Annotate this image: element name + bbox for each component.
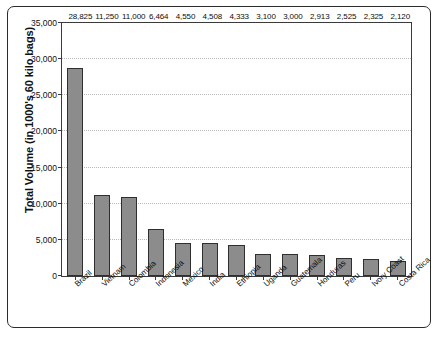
bar-value-label: 4,333 (229, 12, 249, 21)
bar-slot: 2,325 (357, 23, 384, 276)
bar-value-label: 6,464 (149, 12, 169, 21)
y-tick-label: 20,000 (31, 126, 57, 136)
x-label-slot: Costa Rica (385, 279, 412, 325)
y-tick-label: 0 (52, 271, 57, 281)
bar-value-label: 3,100 (256, 12, 276, 21)
bar[interactable]: 11,250 (94, 195, 110, 276)
x-label-slot: Colombia (115, 279, 142, 325)
bar[interactable]: 2,325 (363, 259, 379, 276)
bar-slot: 4,550 (169, 23, 196, 276)
bar-slot: 2,120 (384, 23, 411, 276)
bar-value-label: 4,550 (176, 12, 196, 21)
x-label-slot: Mexico (169, 279, 196, 325)
bar-value-label: 2,525 (337, 12, 357, 21)
bar-slot: 3,000 (277, 23, 304, 276)
bar-value-label: 4,508 (203, 12, 223, 21)
bar-slot: 4,333 (223, 23, 250, 276)
x-label-slot: Vietnam (88, 279, 115, 325)
bar-series: 28,82511,25011,0006,4644,5504,5084,3333,… (62, 23, 411, 276)
y-tick-label: 35,000 (31, 18, 57, 28)
x-axis-category-labels: BrazilVietnamColombiaIndonesiaMexicoIndi… (61, 279, 412, 325)
bar-slot: 28,825 (62, 23, 89, 276)
y-tick-label: 25,000 (31, 90, 57, 100)
y-tick-label: 30,000 (31, 54, 57, 64)
bar-slot: 3,100 (250, 23, 277, 276)
bar-slot: 11,000 (116, 23, 143, 276)
x-label-slot: Ivory Coast (358, 279, 385, 325)
x-label-slot: Brazil (61, 279, 88, 325)
plot-area: 05,00010,00015,00020,00025,00030,00035,0… (61, 22, 412, 277)
bar-value-label: 28,825 (68, 12, 92, 21)
bar-slot: 11,250 (89, 23, 116, 276)
y-tick-label: 5,000 (36, 235, 57, 245)
x-label-slot: Honduras (304, 279, 331, 325)
bar[interactable]: 4,333 (228, 245, 244, 276)
bar-value-label: 2,120 (391, 12, 411, 21)
y-tick-label: 15,000 (31, 163, 57, 173)
y-tick-label: 10,000 (31, 199, 57, 209)
x-label-slot: India (196, 279, 223, 325)
x-label-slot: Peru (331, 279, 358, 325)
bar[interactable]: 28,825 (67, 68, 83, 276)
bar-value-label: 11,250 (95, 12, 118, 21)
bar-slot: 2,913 (304, 23, 331, 276)
bar-value-label: 3,000 (283, 12, 303, 21)
x-label-slot: Guatemala (277, 279, 304, 325)
bar-value-label: 2,325 (364, 12, 384, 21)
x-label-slot: Uganda (250, 279, 277, 325)
bar-value-label: 2,913 (310, 12, 330, 21)
bar-slot: 6,464 (143, 23, 170, 276)
bar-value-label: 11,000 (122, 12, 145, 21)
bar-slot: 4,508 (196, 23, 223, 276)
chart-figure: Total Volume (in 1000's 60 kilo bags) 05… (7, 6, 431, 328)
x-label-slot: Ethiopia (223, 279, 250, 325)
x-label-slot: Indonesia (142, 279, 169, 325)
y-axis-title: Total Volume (in 1000's 60 kilo bags) (23, 20, 35, 220)
bar-slot: 2,525 (330, 23, 357, 276)
